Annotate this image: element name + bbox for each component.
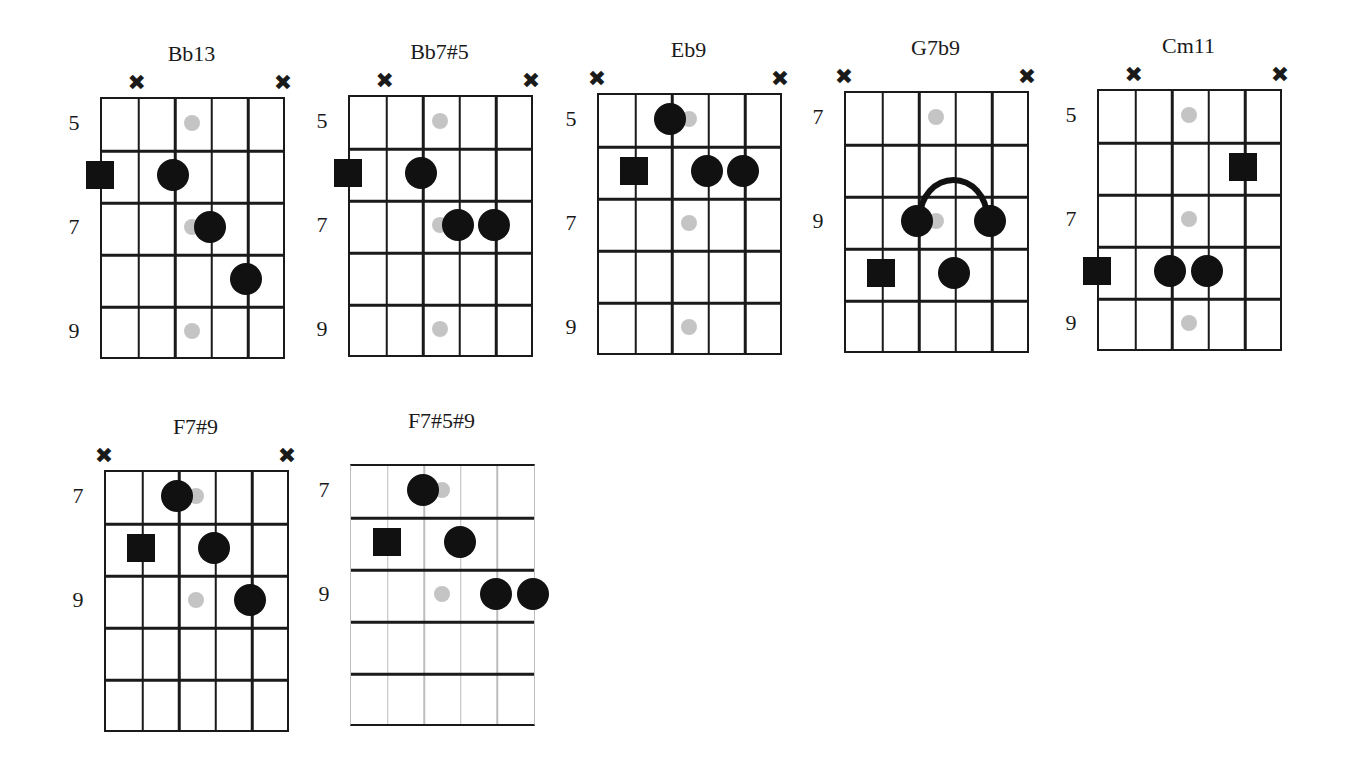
finger-dot-icon <box>157 159 189 191</box>
fret-number-label: 7 <box>317 212 328 238</box>
fret-line <box>106 575 287 578</box>
fret-line <box>846 144 1027 147</box>
muted-string-x-icon: ✖ <box>1018 66 1036 88</box>
root-note-square-icon <box>1229 153 1257 181</box>
fret-number-label: 7 <box>319 477 330 503</box>
finger-dot-icon <box>938 257 970 289</box>
fret-number-label: 7 <box>73 483 84 509</box>
root-note-square-icon <box>1083 257 1111 285</box>
fret-line <box>350 148 531 151</box>
fret-marker-dot-icon <box>1181 211 1197 227</box>
muted-string-x-icon: ✖ <box>278 445 296 467</box>
string-line <box>460 466 462 724</box>
string-line <box>141 472 144 730</box>
fret-line <box>599 146 780 149</box>
fret-line <box>102 150 283 153</box>
chord-title: Bb7#5 <box>410 39 469 65</box>
string-line <box>385 97 388 355</box>
fret-marker-dot-icon <box>681 215 697 231</box>
fret-marker-dot-icon <box>432 113 448 129</box>
string-line <box>247 99 250 357</box>
finger-dot-icon <box>480 578 512 610</box>
fret-marker-dot-icon <box>1181 315 1197 331</box>
root-note-square-icon <box>127 534 155 562</box>
muted-string-x-icon: ✖ <box>95 445 113 467</box>
string-line <box>881 93 884 351</box>
fret-number-label: 9 <box>319 581 330 607</box>
fret-marker-dot-icon <box>434 586 450 602</box>
fret-number-label: 9 <box>73 587 84 613</box>
finger-dot-icon <box>230 263 262 295</box>
fret-line <box>350 304 531 307</box>
root-note-square-icon <box>620 157 648 185</box>
string-line <box>1244 91 1247 349</box>
fret-number-label: 7 <box>566 210 577 236</box>
chord-title: F7#5#9 <box>408 408 475 434</box>
finger-dot-icon <box>691 155 723 187</box>
string-line <box>1208 91 1211 349</box>
fret-number-label: 5 <box>317 108 328 134</box>
string-line <box>744 95 747 353</box>
fret-marker-dot-icon <box>681 319 697 335</box>
muted-string-x-icon: ✖ <box>274 72 292 94</box>
finger-dot-icon <box>727 155 759 187</box>
fret-number-label: 9 <box>1066 310 1077 336</box>
string-line <box>955 93 958 351</box>
chord-title: F7#9 <box>173 414 218 440</box>
finger-dot-icon <box>405 157 437 189</box>
fret-line <box>350 252 531 255</box>
finger-dot-icon <box>198 532 230 564</box>
chord-title: Cm11 <box>1162 33 1215 59</box>
fret-line <box>599 250 780 253</box>
fret-line <box>1099 298 1280 301</box>
fret-marker-dot-icon <box>1181 107 1197 123</box>
finger-dot-icon <box>974 205 1006 237</box>
string-line <box>1134 91 1137 349</box>
root-note-square-icon <box>334 159 362 187</box>
fret-number-label: 5 <box>69 110 80 136</box>
fret-line <box>1099 246 1280 249</box>
muted-string-x-icon: ✖ <box>588 68 606 90</box>
finger-dot-icon <box>194 211 226 243</box>
fret-marker-dot-icon <box>188 592 204 608</box>
string-line <box>387 466 389 724</box>
fret-number-label: 9 <box>317 316 328 342</box>
fret-number-label: 5 <box>566 106 577 132</box>
finger-dot-icon <box>654 103 686 135</box>
fret-number-label: 9 <box>69 318 80 344</box>
finger-dot-icon <box>161 480 193 512</box>
fret-line <box>846 248 1027 251</box>
fret-number-label: 9 <box>813 208 824 234</box>
fret-line <box>102 306 283 309</box>
fret-line <box>1099 194 1280 197</box>
finger-dot-icon <box>517 578 549 610</box>
finger-dot-icon <box>442 209 474 241</box>
chord-title: G7b9 <box>911 35 960 61</box>
fret-line <box>350 200 531 203</box>
string-line <box>634 95 637 353</box>
string-line <box>1171 91 1174 349</box>
fret-line <box>1099 142 1280 145</box>
fret-marker-dot-icon <box>184 323 200 339</box>
fret-number-label: 5 <box>1066 102 1077 128</box>
string-line <box>708 95 711 353</box>
fret-number-label: 9 <box>566 314 577 340</box>
string-line <box>137 99 140 357</box>
muted-string-x-icon: ✖ <box>375 70 393 92</box>
finger-dot-icon <box>478 209 510 241</box>
fret-line <box>102 254 283 257</box>
fret-line <box>351 569 534 572</box>
muted-string-x-icon: ✖ <box>835 66 853 88</box>
finger-dot-icon <box>901 205 933 237</box>
fret-line <box>106 627 287 630</box>
muted-string-x-icon: ✖ <box>522 70 540 92</box>
fret-marker-dot-icon <box>184 115 200 131</box>
root-note-square-icon <box>86 161 114 189</box>
finger-dot-icon <box>1191 255 1223 287</box>
fret-marker-dot-icon <box>432 321 448 337</box>
fret-line <box>599 302 780 305</box>
chord-title: Eb9 <box>671 37 706 63</box>
muted-string-x-icon: ✖ <box>1124 64 1142 86</box>
fret-line <box>102 202 283 205</box>
finger-dot-icon <box>407 474 439 506</box>
